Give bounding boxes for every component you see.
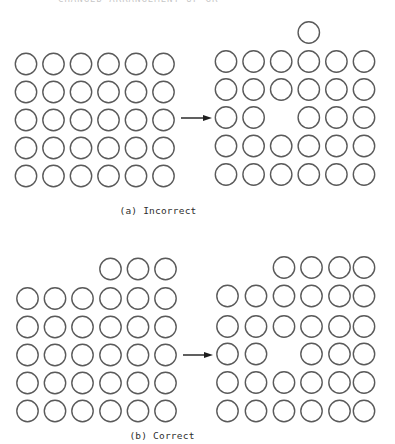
grid-circle (301, 400, 322, 421)
grid-circle (98, 81, 119, 102)
panel-a (15, 22, 374, 187)
grid-circle (72, 372, 93, 393)
grid-circle (271, 79, 292, 100)
grid-circle (326, 51, 347, 72)
grid-circle (243, 79, 264, 100)
grid-circle (100, 372, 121, 393)
grid-circle (127, 400, 148, 421)
grid-circle (243, 107, 264, 128)
grid-circle (353, 135, 374, 156)
grid-circle (298, 51, 319, 72)
arrowhead-icon (204, 352, 213, 358)
grid-circle (127, 316, 148, 337)
grid-circle (72, 316, 93, 337)
grid-circle (44, 316, 65, 337)
grid-circle (70, 53, 91, 74)
grid-circle (127, 372, 148, 393)
grid-circle (273, 400, 294, 421)
grid-circle (326, 79, 347, 100)
grid-circle (217, 316, 238, 337)
grid-circle (217, 343, 238, 364)
grid-circle (215, 164, 236, 185)
grid-circle (15, 81, 36, 102)
grid-circle (217, 372, 238, 393)
grid-circle (326, 164, 347, 185)
grid-circle (100, 288, 121, 309)
grid-circle (125, 53, 146, 74)
grid-circle (70, 137, 91, 158)
grid-circle (153, 53, 174, 74)
grid-circle (100, 344, 121, 365)
grid-circle (43, 137, 64, 158)
grid-circle (353, 107, 374, 128)
grid-circle (153, 81, 174, 102)
grid-circle (215, 135, 236, 156)
grid-circle (153, 109, 174, 130)
grid-circle (353, 372, 374, 393)
grid-circle (273, 285, 294, 306)
grid-circle (329, 285, 350, 306)
grid-circle (15, 109, 36, 130)
grid-circle (155, 344, 176, 365)
extra-circle (298, 22, 319, 43)
grid-circle (326, 107, 347, 128)
grid-circle (298, 135, 319, 156)
grid-circle (100, 316, 121, 337)
grid-circle (243, 164, 264, 185)
grid-circle (301, 343, 322, 364)
grid-circle (125, 137, 146, 158)
grid-circle (215, 79, 236, 100)
grid-circle (70, 81, 91, 102)
extra-circle (100, 258, 121, 279)
panel-a-arrow-icon (181, 115, 212, 121)
grid-circle (329, 372, 350, 393)
circle-grid-diagram (0, 0, 395, 444)
figure-canvas: CHANGED ARRANGEMENT OF GRID (a) Incorrec… (0, 0, 395, 444)
grid-circle (43, 53, 64, 74)
grid-circle (17, 400, 38, 421)
grid-circle (155, 316, 176, 337)
grid-circle (245, 372, 266, 393)
grid-circle (353, 343, 374, 364)
grid-circle (273, 316, 294, 337)
grid-circle (329, 316, 350, 337)
grid-circle (155, 400, 176, 421)
grid-circle (43, 165, 64, 186)
grid-circle (17, 372, 38, 393)
grid-circle (245, 316, 266, 337)
grid-circle (301, 372, 322, 393)
grid-circle (17, 316, 38, 337)
grid-circle (245, 400, 266, 421)
grid-circle (326, 135, 347, 156)
grid-circle (125, 81, 146, 102)
grid-circle (353, 400, 374, 421)
grid-circle (298, 107, 319, 128)
extra-circle (301, 257, 322, 278)
panel-b-before-grid (17, 258, 176, 421)
grid-circle (217, 400, 238, 421)
grid-circle (70, 165, 91, 186)
grid-circle (245, 285, 266, 306)
grid-circle (17, 344, 38, 365)
grid-circle (329, 400, 350, 421)
grid-circle (98, 165, 119, 186)
grid-circle (243, 51, 264, 72)
grid-circle (215, 51, 236, 72)
grid-circle (301, 285, 322, 306)
grid-circle (353, 164, 374, 185)
grid-circle (243, 135, 264, 156)
grid-circle (217, 285, 238, 306)
extra-circle (127, 258, 148, 279)
grid-circle (245, 343, 266, 364)
grid-circle (72, 400, 93, 421)
grid-circle (98, 53, 119, 74)
caption-a-incorrect: (a) Incorrect (120, 205, 197, 216)
grid-circle (298, 79, 319, 100)
grid-circle (44, 372, 65, 393)
extra-circle (329, 257, 350, 278)
grid-circle (100, 400, 121, 421)
grid-circle (329, 343, 350, 364)
grid-circle (15, 165, 36, 186)
grid-circle (43, 109, 64, 130)
grid-circle (153, 137, 174, 158)
